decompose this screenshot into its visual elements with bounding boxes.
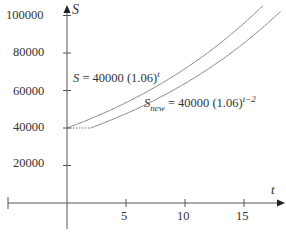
ytick-label-80000: 80000 bbox=[13, 45, 44, 60]
eq2-exponent: t−2 bbox=[243, 94, 256, 104]
equation-snew-label: Snew = 40000 (1.06)t−2 bbox=[144, 94, 256, 113]
eq2-rhs: = 40000 (1.06) bbox=[165, 96, 243, 110]
xtick-label-10: 10 bbox=[177, 209, 190, 224]
x-axis-label: t bbox=[271, 182, 275, 198]
axes bbox=[8, 11, 279, 229]
xtick-label-5: 5 bbox=[121, 209, 127, 224]
x-axis-arrow-icon bbox=[277, 200, 285, 207]
ytick-label-100000: 100000 bbox=[6, 8, 44, 23]
eq1-exponent: t bbox=[157, 69, 160, 79]
ytick-label-60000: 60000 bbox=[13, 84, 44, 99]
y-axis-arrow-icon bbox=[64, 5, 71, 13]
ytick-label-40000: 40000 bbox=[13, 120, 44, 135]
equation-s-label: SS = 40000 (1.06) = 40000 (1.06)t bbox=[73, 69, 160, 86]
y-axis-label: S bbox=[72, 2, 79, 18]
eq2-subscript: new bbox=[150, 103, 165, 113]
ytick-label-20000: 20000 bbox=[13, 156, 44, 171]
xtick-label-15: 15 bbox=[236, 209, 249, 224]
